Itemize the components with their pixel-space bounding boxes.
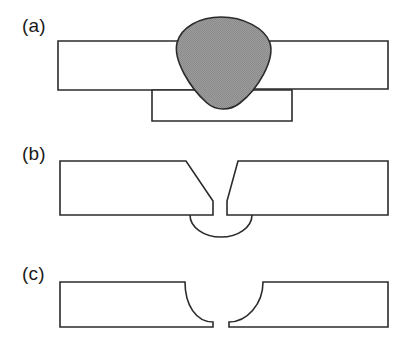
panel-b-backing-ring — [190, 215, 252, 237]
panel-a-label: (a) — [22, 15, 46, 36]
panel-c-left-plate — [60, 282, 213, 327]
weld-joint-figure: (a) (b) (c) — [0, 0, 412, 347]
figure-canvas: (a) (b) (c) — [0, 0, 412, 347]
panel-b-left-plate — [60, 161, 213, 215]
panel-c: (c) — [22, 263, 388, 327]
panel-b-right-plate — [227, 161, 388, 215]
panel-c-label: (c) — [22, 263, 45, 284]
panel-c-right-plate — [229, 282, 388, 327]
panel-b-label: (b) — [22, 143, 46, 164]
panel-b: (b) — [22, 143, 388, 237]
panel-a: (a) — [22, 15, 388, 121]
